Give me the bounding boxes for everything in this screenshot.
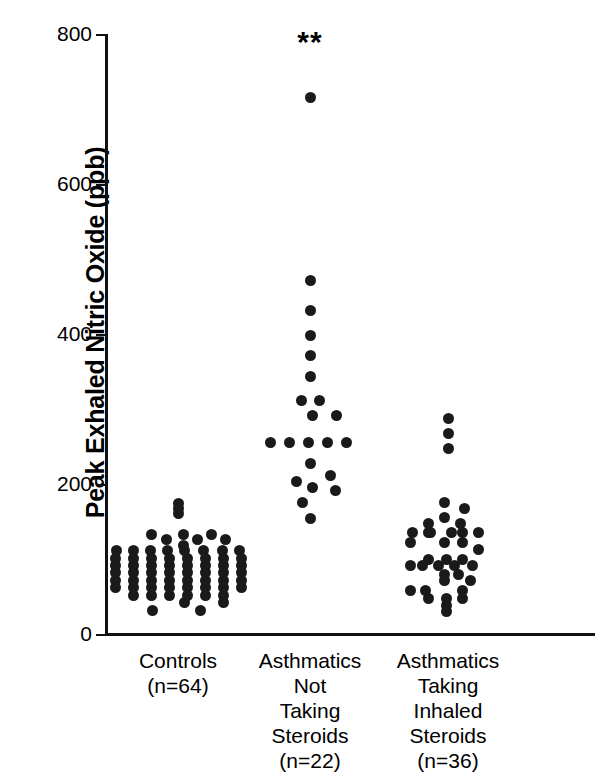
y-tick-label: 600 [57,172,92,196]
data-point [305,305,316,316]
data-point [200,590,211,601]
data-point [305,330,316,341]
y-tick-mark [96,634,105,636]
data-point [218,597,229,608]
data-point [405,537,416,548]
y-tick-label: 400 [57,322,92,346]
x-axis-label-group-3: Asthmatics Taking Inhaled Steroids (n=36… [353,648,543,773]
y-tick-mark [96,334,105,336]
data-point [192,534,203,545]
data-point [325,470,336,481]
data-point [473,527,484,538]
data-point [439,512,450,523]
data-point [331,410,342,421]
y-tick-mark [96,484,105,486]
y-tick-label: 0 [80,622,92,646]
data-point [446,527,457,538]
data-point [457,537,468,548]
data-point [443,413,454,424]
data-point [457,593,468,604]
data-point [423,593,434,604]
figure-dot-plot: Peak Exhaled Nitric Oxide (ppb) 02004006… [0,0,607,780]
data-point [236,582,247,593]
data-point [443,428,454,439]
data-point [314,395,325,406]
data-point [195,605,206,616]
data-point [341,437,352,448]
data-point [220,534,231,545]
data-point [305,275,316,286]
data-point [330,485,341,496]
data-point [305,92,316,103]
y-tick-mark [96,34,105,36]
y-tick-label: 200 [57,472,92,496]
data-point [297,497,308,508]
data-point [457,527,468,538]
data-point [146,590,157,601]
data-point [417,560,428,571]
data-point [467,560,478,571]
data-point [305,513,316,524]
data-point [265,437,276,448]
data-point [147,605,158,616]
data-point [407,527,418,538]
data-point [291,476,302,487]
data-point [425,527,436,538]
data-point [179,597,190,608]
data-point [453,569,464,580]
data-point [405,585,416,596]
y-axis-line [105,34,108,636]
data-point [206,529,217,540]
data-point [173,508,184,519]
data-point [146,529,157,540]
data-point [443,443,454,454]
data-point [284,437,295,448]
data-point [459,503,470,514]
data-point [439,537,450,548]
data-point [473,544,484,555]
data-point [439,575,450,586]
data-point [178,529,189,540]
significance-marker: ** [297,27,322,57]
data-point [465,575,476,586]
data-point [439,497,450,508]
data-point [305,371,316,382]
y-tick-label: 800 [57,22,92,46]
y-tick-mark [96,184,105,186]
data-point [405,560,416,571]
data-point [164,590,175,601]
data-point [110,582,121,593]
data-point [296,395,307,406]
data-point [303,437,314,448]
data-point [322,437,333,448]
data-point [128,590,139,601]
x-axis-line [105,633,595,636]
data-point [307,482,318,493]
data-point [305,350,316,361]
data-point [305,458,316,469]
plot-area: 0200400600800 ** [105,34,595,636]
data-point [441,606,452,617]
data-point [307,410,318,421]
data-point [161,534,172,545]
